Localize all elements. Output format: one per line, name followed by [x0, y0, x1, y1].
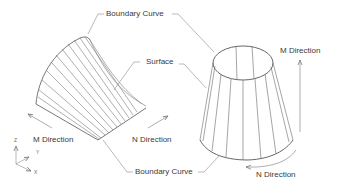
y-axis: [16, 157, 29, 164]
label-surface: Surface: [146, 58, 174, 66]
right-cone-surface: [200, 46, 293, 160]
leader-boundary-bottom-left: [103, 140, 133, 172]
cone-bottom-boundary: [200, 140, 293, 160]
left-ruled-surface: [36, 37, 146, 140]
leader-surface-right: [179, 64, 206, 88]
label-boundary-curve-bottom: Boundary Curve: [135, 168, 193, 176]
label-m-direction-left: M Direction: [33, 136, 73, 144]
xyz-axis-triad: [16, 146, 31, 171]
axis-label-x: X: [34, 170, 37, 175]
label-n-direction-left: N Direction: [132, 136, 172, 144]
leader-boundary-top-right: [172, 14, 214, 52]
axis-label-y: Y: [36, 150, 39, 155]
direction-arrows: [28, 60, 300, 167]
leader-boundary-top-left: [88, 14, 104, 34]
n-direction-left-arrow: [148, 116, 168, 128]
label-m-direction-right: M Direction: [280, 47, 320, 55]
x-axis: [16, 164, 31, 171]
leader-surface-left: [114, 62, 140, 90]
leader-boundary-bottom-right: [198, 156, 219, 172]
axis-label-z: Z: [14, 138, 17, 143]
cone-top-ellipse: [213, 46, 273, 80]
n-direction-right-arrow: [246, 150, 296, 167]
label-n-direction-right: N Direction: [256, 171, 296, 179]
m-direction-left-arrow: [28, 114, 52, 128]
label-boundary-curve-top: Boundary Curve: [106, 10, 164, 18]
surface-diagram: [0, 0, 338, 189]
leader-lines: [88, 14, 219, 172]
